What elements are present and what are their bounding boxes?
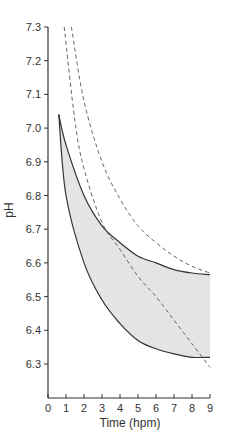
y-tick-label: 7.2	[26, 55, 41, 67]
x-axis-title: Time (hpm)	[100, 416, 161, 430]
y-axis-ticks: 7.37.27.17.06.96.86.76.66.56.46.3	[26, 21, 48, 370]
x-tick-label: 8	[189, 402, 195, 414]
x-tick-label: 7	[171, 402, 177, 414]
x-tick-label: 1	[63, 402, 69, 414]
x-tick-label: 4	[117, 402, 123, 414]
x-tick-label: 9	[207, 402, 213, 414]
y-tick-label: 6.7	[26, 223, 41, 235]
y-tick-label: 7.3	[26, 21, 41, 33]
x-tick-label: 2	[81, 402, 87, 414]
y-tick-label: 6.5	[26, 291, 41, 303]
y-tick-label: 6.6	[26, 257, 41, 269]
y-tick-label: 6.8	[26, 190, 41, 202]
x-tick-label: 0	[45, 402, 51, 414]
y-tick-label: 6.3	[26, 358, 41, 370]
y-axis-title: pH	[2, 202, 16, 217]
ph-time-chart: 7.37.27.17.06.96.86.76.66.56.46.3 012345…	[0, 0, 227, 441]
y-tick-label: 6.9	[26, 156, 41, 168]
y-tick-label: 7.0	[26, 122, 41, 134]
y-tick-label: 6.4	[26, 324, 41, 336]
x-tick-label: 3	[99, 402, 105, 414]
y-tick-label: 7.1	[26, 88, 41, 100]
shaded-band	[59, 115, 210, 358]
x-tick-label: 5	[135, 402, 141, 414]
plot-area	[59, 27, 210, 367]
x-tick-label: 6	[153, 402, 159, 414]
axes: 7.37.27.17.06.96.86.76.66.56.46.3 012345…	[2, 21, 213, 430]
x-axis-ticks: 0123456789	[45, 394, 213, 414]
